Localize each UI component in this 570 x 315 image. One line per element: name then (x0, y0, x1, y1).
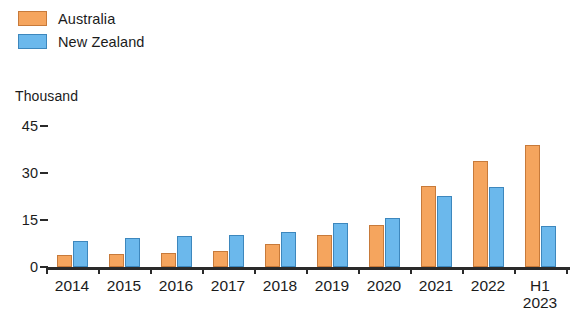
y-tick-label-0: 0 (4, 259, 38, 275)
x-tick-label-2022: 2022 (471, 277, 505, 294)
bar-australia-2014 (57, 255, 72, 267)
bar-australia-2019 (317, 235, 332, 267)
x-tick-label-2021: 2021 (419, 277, 453, 294)
bar-australia-2017 (213, 251, 228, 267)
y-tick-mark-15 (40, 219, 48, 221)
x-tick-label-2015: 2015 (107, 277, 141, 294)
x-tick-mark-5 (306, 269, 308, 274)
bar-new-zealand-2015 (125, 238, 140, 267)
bar-australia-2020 (369, 225, 384, 267)
y-tick-label-30: 30 (4, 165, 38, 181)
bar-new-zealand-H1-2023 (541, 226, 556, 267)
x-tick-label-2018: 2018 (263, 277, 297, 294)
bar-new-zealand-2022 (489, 187, 504, 267)
x-tick-mark-end (566, 269, 568, 274)
bar-new-zealand-2014 (73, 241, 88, 267)
bar-australia-2015 (109, 254, 124, 267)
bar-new-zealand-2018 (281, 232, 296, 267)
plot-area: 4530150 20142015201620172018201920202021… (0, 0, 570, 315)
x-tick-mark-3 (202, 269, 204, 274)
bar-new-zealand-2019 (333, 223, 348, 267)
y-tick-mark-45 (40, 125, 48, 127)
x-axis-line (46, 267, 570, 270)
y-tick-mark-30 (40, 172, 48, 174)
y-tick-label-15: 15 (4, 212, 38, 228)
x-tick-label-2017: 2017 (211, 277, 245, 294)
x-tick-mark-4 (254, 269, 256, 274)
x-tick-mark-0 (46, 269, 48, 274)
bar-new-zealand-2016 (177, 236, 192, 267)
bar-australia-2018 (265, 244, 280, 267)
x-tick-label-2014: 2014 (55, 277, 89, 294)
x-tick-label-2020: 2020 (367, 277, 401, 294)
bar-australia-2021 (421, 186, 436, 267)
x-tick-label-2016: 2016 (159, 277, 193, 294)
x-tick-label-2019: 2019 (315, 277, 349, 294)
x-tick-mark-2 (150, 269, 152, 274)
x-tick-mark-7 (410, 269, 412, 274)
bar-new-zealand-2021 (437, 196, 452, 267)
bar-australia-H1-2023 (525, 145, 540, 267)
x-tick-mark-1 (98, 269, 100, 274)
x-tick-label-H1-2023: H1 2023 (523, 277, 557, 311)
x-tick-mark-6 (358, 269, 360, 274)
bar-australia-2022 (473, 161, 488, 267)
bar-australia-2016 (161, 253, 176, 267)
bar-new-zealand-2020 (385, 218, 400, 267)
bar-new-zealand-2017 (229, 235, 244, 267)
y-tick-label-45: 45 (4, 118, 38, 134)
x-tick-mark-8 (462, 269, 464, 274)
x-tick-mark-9 (514, 269, 516, 274)
